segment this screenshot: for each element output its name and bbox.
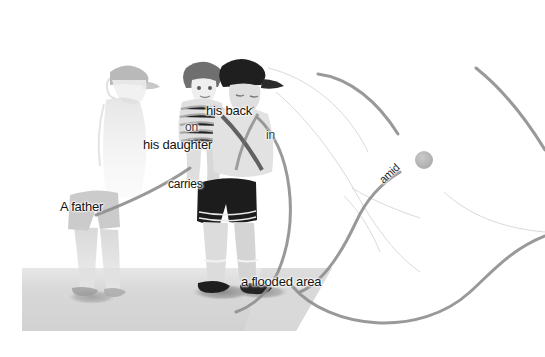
arc-top-left — [318, 74, 398, 134]
caption-word-a-flooded-area[interactable]: a flooded area — [241, 275, 321, 288]
scene-illustration — [0, 0, 545, 357]
attention-node[interactable] — [415, 151, 433, 169]
caption-word-his-daughter[interactable]: his daughter — [143, 138, 212, 151]
caption-word-on[interactable]: on — [185, 121, 198, 133]
caption-word-in[interactable]: in — [266, 129, 275, 141]
caption-word-a-father[interactable]: A father — [60, 200, 103, 213]
screenshot-canvas: A father carries his daughter on his bac… — [0, 0, 545, 357]
arc-bottom-right — [292, 236, 545, 323]
guide-curves — [268, 68, 545, 272]
arc-top-right — [476, 68, 545, 150]
caption-word-his-back[interactable]: his back — [206, 104, 252, 117]
caption-word-carries[interactable]: carries — [168, 178, 203, 190]
